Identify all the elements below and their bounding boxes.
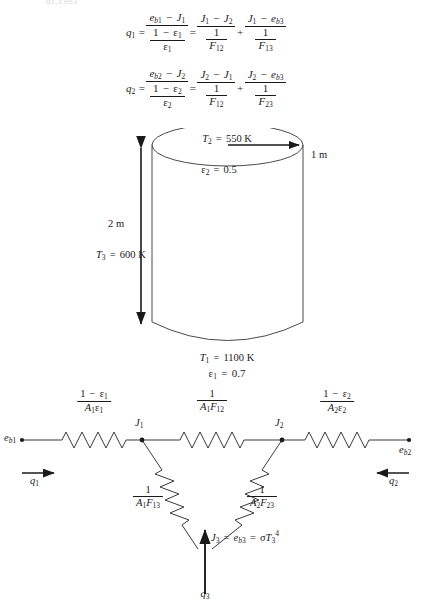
clipped-header-text: q1,3 eb3 xyxy=(46,0,186,5)
node-label-J3: J3 = eb3 = σT34 xyxy=(211,530,279,544)
q2-lhs: q2 xyxy=(126,83,135,96)
side-temperature-label: T3 = 600 K xyxy=(96,250,146,262)
figure-page: q1,3 eb3 q1 = eb1 − J1 1 − ε1 ε1 = J1 − … xyxy=(0,0,431,601)
height-dimension-label: 2 m xyxy=(108,219,124,230)
cylinder-drawing xyxy=(0,128,431,358)
bottom-temperature-label: T1 = 1100 K xyxy=(200,353,255,365)
equals-sign: = xyxy=(137,83,146,94)
resistor-label-space-12: 1 A1F12 xyxy=(197,389,227,413)
node-dot-J1 xyxy=(140,438,145,443)
node-label-eb1: eb1 xyxy=(4,433,16,445)
current-label-q1: q1 xyxy=(30,476,39,488)
equals-sign-2: = xyxy=(188,83,197,94)
top-emissivity-label: ε2 = 0.5 xyxy=(201,165,236,177)
cylinder-figure: T2 = 550 K 1 m ε2 = 0.5 2 m T3 = 600 K T… xyxy=(0,128,431,358)
wire-J2-to-r23 xyxy=(262,440,282,470)
top-temperature-label: T2 = 550 K xyxy=(202,134,252,146)
node-dot-eb2 xyxy=(407,438,411,442)
node-label-eb2: eb2 xyxy=(399,445,411,457)
q2-term3: J2 − eb3 1 F23 xyxy=(245,69,287,109)
plus-sign: + xyxy=(235,27,244,38)
radius-dimension-label: 1 m xyxy=(311,150,327,161)
resistor-label-space-13: 1 A1F13 xyxy=(133,485,163,509)
q2-term2: J2 − J1 1 F12 xyxy=(197,69,235,109)
current-label-q2: q2 xyxy=(389,476,398,488)
q2-equation: q2 = eb2 − J2 1 − ε2 ε2 = J2 − J1 1 F12 … xyxy=(126,68,286,110)
resistor-surface-2 xyxy=(305,432,369,448)
q2-term1: eb2 − J2 1 − ε2 ε2 xyxy=(146,68,188,110)
cylinder-bottom-arc xyxy=(152,322,303,341)
bottom-emissivity-label: ε1 = 0.7 xyxy=(209,368,246,381)
q1-term1: eb1 − J1 1 − ε1 ε1 xyxy=(146,12,188,54)
q1-term2: J1 − J2 1 F12 xyxy=(197,13,235,53)
current-label-q3: q3 xyxy=(201,589,210,601)
wire-r13-to-J3 xyxy=(182,525,198,549)
resistor-label-space-23: 1 A2F23 xyxy=(247,485,277,509)
node-label-J1: J1 xyxy=(135,418,143,430)
resistor-space-12 xyxy=(180,432,244,448)
network-figure: 1 − ε1 A1ε1 1 A1F12 1 − ε2 A2ε2 1 A1F13 xyxy=(0,382,431,601)
resistor-label-surface-2: 1 − ε2 A2ε2 xyxy=(320,389,354,414)
network-drawing xyxy=(0,382,431,601)
q1-term3: J1 − eb3 1 F13 xyxy=(245,13,287,53)
resistor-label-surface-1: 1 − ε1 A1ε1 xyxy=(77,389,111,414)
node-dot-eb1 xyxy=(20,438,24,442)
wire-J1-to-r13 xyxy=(142,440,162,470)
equals-sign: = xyxy=(137,27,146,38)
plus-sign: + xyxy=(235,83,244,94)
q1-equation: q1 = eb1 − J1 1 − ε1 ε1 = J1 − J2 1 F12 … xyxy=(126,12,286,54)
resistor-surface-1 xyxy=(62,432,126,448)
equals-sign-2: = xyxy=(188,27,197,38)
q1-lhs: q1 xyxy=(126,27,135,40)
node-dot-J2 xyxy=(280,438,285,443)
node-label-J2: J2 xyxy=(275,418,283,430)
